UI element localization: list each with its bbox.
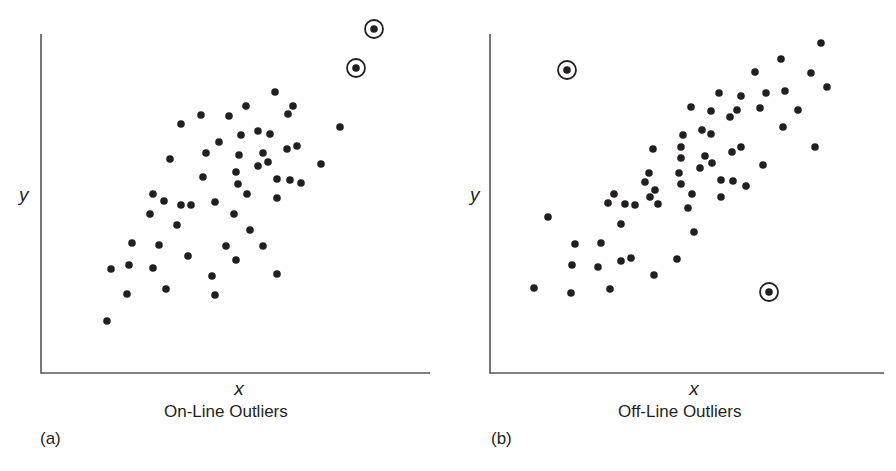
data-point: [707, 107, 715, 115]
data-point: [677, 143, 685, 151]
data-point: [715, 89, 723, 97]
data-point: [225, 112, 233, 120]
data-point: [751, 68, 759, 76]
outlier-marker: [558, 61, 576, 79]
x-axis-label: x: [674, 378, 714, 400]
data-point: [286, 176, 294, 184]
data-point: [123, 290, 131, 298]
data-point: [777, 55, 785, 63]
data-point: [687, 103, 695, 111]
data-point: [708, 159, 716, 167]
data-point: [641, 178, 649, 186]
data-point: [230, 210, 238, 218]
y-axis-label: y: [19, 184, 29, 206]
data-point: [234, 180, 242, 188]
data-point: [737, 92, 745, 100]
data-point: [781, 87, 789, 95]
panel-letter: (a): [40, 429, 61, 449]
data-point: [811, 143, 819, 151]
data-point: [606, 285, 614, 293]
data-point: [677, 180, 685, 188]
data-point: [610, 190, 618, 198]
data-point: [146, 210, 154, 218]
data-point: [211, 291, 219, 299]
data-point: [650, 271, 658, 279]
data-point: [597, 239, 605, 247]
data-point: [646, 193, 654, 201]
data-point: [627, 254, 635, 262]
data-point: [235, 151, 243, 159]
data-point: [817, 39, 825, 47]
data-point: [690, 228, 698, 236]
data-point: [162, 285, 170, 293]
data-point: [289, 102, 297, 110]
data-point: [243, 190, 251, 198]
data-point: [684, 204, 692, 212]
data-point: [232, 168, 240, 176]
data-point: [654, 200, 662, 208]
data-point: [631, 201, 639, 209]
data-point: [254, 162, 262, 170]
axes-lines: [41, 34, 430, 373]
data-point: [677, 154, 685, 162]
data-point: [698, 126, 706, 134]
data-point: [187, 201, 195, 209]
data-point: [283, 145, 291, 153]
data-point: [756, 104, 764, 112]
data-point: [688, 190, 696, 198]
data-point: [128, 239, 136, 247]
panel-a: y x On-Line Outliers (a): [0, 0, 448, 471]
data-point: [259, 242, 267, 250]
data-point: [177, 201, 185, 209]
data-point: [733, 106, 741, 114]
data-point: [211, 198, 219, 206]
data-point: [571, 240, 579, 248]
data-point: [208, 272, 216, 280]
data-point: [297, 179, 305, 187]
data-point: [679, 131, 687, 139]
data-point: [273, 270, 281, 278]
data-point: [594, 263, 602, 271]
data-point: [149, 264, 157, 272]
data-point: [604, 199, 612, 207]
data-point: [273, 194, 281, 202]
data-point: [726, 113, 734, 121]
data-point: [246, 226, 254, 234]
data-point: [160, 197, 168, 205]
data-point: [107, 265, 115, 273]
data-point: [254, 127, 262, 135]
data-point: [271, 88, 279, 96]
data-point: [237, 131, 245, 139]
panel-letter: (b): [491, 429, 512, 449]
data-point: [184, 252, 192, 260]
data-point: [264, 158, 272, 166]
data-point: [651, 186, 659, 194]
outlier-marker: [760, 283, 778, 301]
data-point: [729, 177, 737, 185]
data-point: [544, 213, 552, 221]
data-point: [717, 193, 725, 201]
panel-b: y x Off-Line Outliers (b): [448, 0, 896, 471]
outlier-marker: [365, 20, 383, 38]
data-point: [823, 83, 831, 91]
data-point: [728, 148, 736, 156]
data-point: [737, 143, 745, 151]
data-point: [762, 89, 770, 97]
data-point: [232, 256, 240, 264]
data-point: [742, 182, 750, 190]
data-point: [317, 160, 325, 168]
data-point: [530, 284, 538, 292]
data-point: [266, 130, 274, 138]
data-point: [696, 164, 704, 172]
x-axis-label: x: [219, 378, 259, 400]
data-point: [177, 120, 185, 128]
data-point: [336, 123, 344, 131]
data-point: [199, 173, 207, 181]
data-point: [759, 161, 767, 169]
data-point: [293, 142, 301, 150]
chart-title: On-Line Outliers: [164, 402, 288, 422]
data-point: [149, 190, 157, 198]
data-point: [675, 169, 683, 177]
data-point: [103, 317, 111, 325]
data-point: [701, 152, 709, 160]
